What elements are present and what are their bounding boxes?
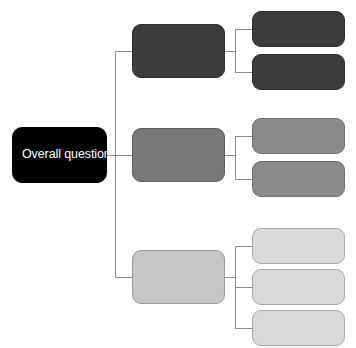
node-root-label: Overall question xyxy=(13,148,111,162)
diagram-canvas: Overall question xyxy=(0,0,356,348)
node-leaf-2-1[interactable] xyxy=(252,118,345,154)
node-leaf-1-1[interactable] xyxy=(252,11,345,47)
node-leaf-3-2[interactable] xyxy=(252,269,345,305)
node-leaf-3-3[interactable] xyxy=(252,310,345,346)
node-root[interactable]: Overall question xyxy=(12,127,107,183)
node-branch-2[interactable] xyxy=(132,128,225,182)
node-leaf-3-1[interactable] xyxy=(252,228,345,264)
node-branch-1[interactable] xyxy=(132,24,225,78)
node-branch-3[interactable] xyxy=(132,250,225,304)
node-leaf-1-2[interactable] xyxy=(252,54,345,90)
node-leaf-2-2[interactable] xyxy=(252,161,345,197)
